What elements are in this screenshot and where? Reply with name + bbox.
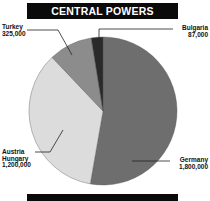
label-turkey-value: 325,000 xyxy=(2,31,26,38)
label-austria-value: 1,200,000 xyxy=(2,162,31,169)
label-germany-value: 1,800,000 xyxy=(179,164,208,171)
pie-slice-germany xyxy=(90,37,177,185)
label-austria-hungary: Austria Hungary 1,200,000 xyxy=(2,149,31,169)
label-bulgaria-value: 87,000 xyxy=(182,32,208,39)
label-bulgaria: Bulgaria 87,000 xyxy=(182,25,208,38)
pie-slices xyxy=(29,37,177,185)
bottom-rule xyxy=(27,194,178,201)
pie-chart xyxy=(0,0,210,201)
label-germany: Germany 1,800,000 xyxy=(179,157,208,170)
label-turkey: Turkey 325,000 xyxy=(2,24,26,37)
